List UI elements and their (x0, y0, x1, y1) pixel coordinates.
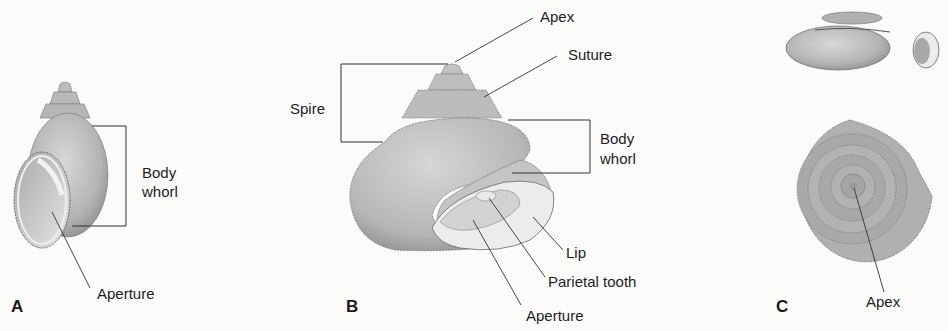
label-b-body-whorl-2: whorl (600, 150, 636, 168)
label-a-aperture: Aperture (97, 285, 155, 303)
panel-letter-c: C (776, 297, 788, 317)
label-b-aperture: Aperture (526, 307, 584, 325)
label-a-body-whorl-1: Body (142, 164, 176, 182)
shell-c-side (786, 12, 939, 70)
label-a-body-whorl-2: whorl (142, 183, 178, 201)
label-b-apex: Apex (540, 8, 574, 26)
label-b-suture: Suture (568, 46, 612, 64)
label-b-lip: Lip (566, 244, 586, 262)
panel-letter-b: B (346, 297, 358, 317)
panel-letter-a: A (11, 297, 23, 317)
shell-c-top (797, 120, 932, 292)
shell-b (341, 18, 590, 305)
shell-a (14, 82, 126, 288)
label-b-parietal-tooth: Parietal tooth (548, 273, 636, 291)
label-b-body-whorl-1: Body (600, 130, 634, 148)
label-b-spire: Spire (290, 100, 325, 118)
label-c-apex: Apex (866, 293, 900, 311)
